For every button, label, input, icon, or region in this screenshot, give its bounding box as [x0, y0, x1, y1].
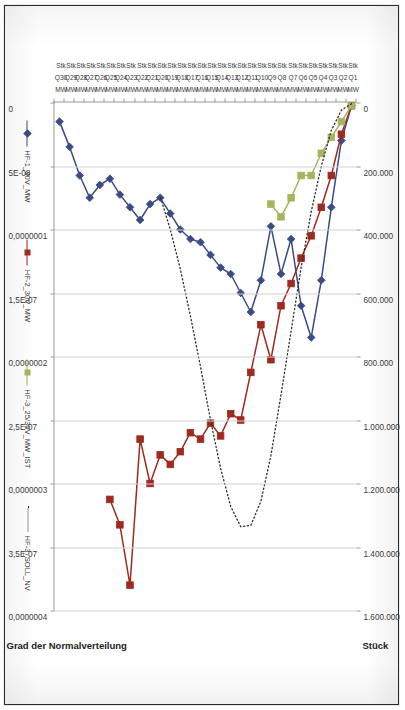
scanned-page: Stück Grad der Normalverteilung 0200.000…: [0, 0, 405, 710]
series-line: [59, 105, 351, 337]
legend-item-label: HF-3_25/30V_MW_IST: [23, 389, 32, 468]
data-point-marker: [348, 102, 355, 109]
category-tick: [315, 98, 316, 102]
category-label-stk: Stk: [47, 62, 75, 69]
primary-axis-tick: [356, 229, 360, 230]
secondary-axis-tick: [50, 420, 54, 421]
primary-axis-tick-label: 1.600.000: [363, 612, 399, 621]
excel-chart: Stück Grad der Normalverteilung 0200.000…: [7, 9, 396, 701]
category-tick: [194, 98, 195, 102]
primary-axis-tick: [356, 547, 360, 548]
primary-axis-tick-label: 1.000.000: [363, 422, 399, 431]
category-tick: [164, 98, 165, 102]
legend-item-3[interactable]: HF-3_25/30V_MW_IST: [22, 359, 32, 468]
data-point-marker: [106, 496, 113, 503]
data-point-marker: [75, 171, 83, 179]
data-point-marker: [277, 302, 284, 309]
category-tick: [274, 98, 275, 102]
legend-symbol-icon: [22, 505, 32, 531]
data-point-marker: [116, 521, 123, 528]
legend-item-1[interactable]: HF-1_30V_MW: [22, 120, 32, 202]
series-3: [267, 102, 354, 220]
category-tick: [144, 98, 145, 102]
data-point-marker: [55, 117, 63, 125]
secondary-axis-tick: [50, 293, 54, 294]
category-tick: [154, 98, 155, 102]
data-point-marker: [187, 429, 194, 436]
data-point-marker: [166, 209, 174, 217]
data-point-marker: [277, 213, 284, 220]
data-point-marker: [267, 200, 274, 207]
category-tick: [184, 98, 185, 102]
gridline: [54, 229, 356, 230]
rotated-chart-canvas: Stück Grad der Normalverteilung 0200.000…: [7, 9, 396, 701]
category-tick: [63, 98, 64, 102]
data-point-marker: [257, 321, 264, 328]
legend-item-label: HF-2_30V_MW: [23, 269, 32, 321]
gridline: [54, 483, 356, 484]
data-point-marker: [156, 451, 163, 458]
data-point-marker: [246, 308, 254, 316]
gridline: [54, 166, 356, 167]
category-tick: [83, 98, 84, 102]
category-tick: [295, 98, 296, 102]
gridline: [54, 420, 356, 421]
data-point-marker: [318, 150, 325, 157]
legend-item-2[interactable]: HF-2_30V_MW: [22, 239, 32, 321]
data-point-marker: [297, 301, 305, 309]
data-point-marker: [267, 222, 275, 230]
data-point-marker: [95, 181, 103, 189]
secondary-axis-tick-label: 0: [8, 104, 13, 113]
category-tick: [174, 98, 175, 102]
legend-item-label: HF-1_30V_MW: [23, 150, 32, 202]
chart-paper: Stück Grad der Normalverteilung 0200.000…: [4, 5, 399, 705]
gridline: [54, 547, 356, 548]
primary-axis-tick: [356, 610, 360, 611]
data-point-marker: [247, 369, 254, 376]
plot-area: [53, 101, 356, 610]
category-tick: [254, 98, 255, 102]
secondary-axis-tick: [50, 483, 54, 484]
data-point-marker: [297, 172, 304, 179]
data-point-marker: [307, 333, 315, 341]
primary-axis-tick: [356, 420, 360, 421]
category-tick: [204, 98, 205, 102]
data-point-marker: [177, 448, 184, 455]
data-point-marker: [338, 118, 345, 125]
category-tick: [134, 98, 135, 102]
category-tick: [355, 98, 356, 102]
data-point-marker: [338, 130, 345, 137]
legend-symbol-icon: [22, 359, 32, 385]
category-tick: [224, 98, 225, 102]
primary-axis-tick: [356, 166, 360, 167]
secondary-axis-tick: [50, 166, 54, 167]
category-tick: [325, 98, 326, 102]
chart-legend: HF-1_30V_MWHF-2_30V_MWHF-3_25/30V_MW_IST…: [15, 101, 39, 609]
data-point-marker: [217, 432, 224, 439]
data-point-marker: [327, 203, 335, 211]
primary-axis-tick: [356, 102, 360, 103]
category-tick: [214, 98, 215, 102]
data-point-marker: [146, 200, 154, 208]
data-point-marker: [318, 204, 325, 211]
category-tick: [335, 98, 336, 102]
data-point-marker: [197, 435, 204, 442]
data-point-marker: [167, 461, 174, 468]
data-point-marker: [287, 280, 294, 287]
data-point-marker: [226, 270, 234, 278]
data-point-marker: [287, 235, 295, 243]
primary-axis-tick-label: 200.000: [363, 168, 393, 177]
data-point-marker: [328, 172, 335, 179]
category-tick: [234, 98, 235, 102]
primary-axis-tick: [356, 356, 360, 357]
secondary-axis-tick: [50, 610, 54, 611]
secondary-axis-tick: [50, 229, 54, 230]
legend-item-4[interactable]: HF-3_SOLL_NV: [22, 505, 32, 590]
data-point-marker: [328, 134, 335, 141]
data-point-marker: [277, 270, 285, 278]
category-tick: [285, 98, 286, 102]
secondary-axis-tick: [50, 547, 54, 548]
category-tick: [73, 98, 74, 102]
secondary-axis-tick: [50, 356, 54, 357]
series-2: [106, 102, 354, 588]
